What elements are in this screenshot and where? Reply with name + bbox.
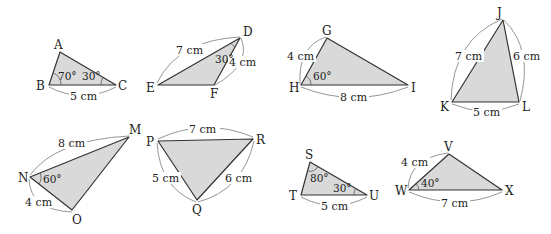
vertex-u-label: U	[369, 189, 379, 203]
side-df-label: 4 cm	[229, 56, 257, 69]
triangle-pqr: P Q R 7 cm 5 cm 6 cm	[146, 123, 266, 217]
vertex-t-label: T	[289, 189, 297, 203]
vertex-g-label: G	[322, 24, 332, 38]
vertex-v-label: V	[443, 140, 453, 154]
triangle-ghi: G H I 60° 4 cm 8 cm	[286, 24, 416, 104]
side-bc-label: 5 cm	[70, 90, 98, 103]
vertex-q-label: Q	[192, 203, 202, 217]
vertex-o-label: O	[72, 213, 82, 227]
vertex-c-label: C	[118, 79, 127, 93]
side-no-label: 4 cm	[25, 196, 53, 209]
vertex-e-label: E	[146, 81, 155, 95]
angle-n-label: 60°	[43, 173, 62, 185]
side-jk-label: 7 cm	[455, 50, 483, 63]
angle-s-label: 80°	[310, 172, 329, 184]
vertex-n-label: N	[18, 171, 29, 185]
vertex-l-label: L	[522, 100, 530, 114]
vertex-f-label: F	[210, 87, 218, 101]
side-jl-label: 6 cm	[513, 50, 541, 63]
angle-h-label: 60°	[313, 70, 332, 82]
triangle-stu: S T U 80° 30° 5 cm	[289, 148, 379, 213]
triangles-figure: A B C 70° 30° 5 cm E D F 30° 7 cm 4 cm G…	[0, 0, 551, 234]
side-gh-label: 4 cm	[287, 50, 315, 63]
side-mn-label: 8 cm	[58, 137, 86, 150]
vertex-d-label: D	[243, 25, 253, 39]
vertex-x-label: X	[505, 184, 514, 198]
vertex-h-label: H	[289, 81, 299, 95]
vertex-i-label: I	[411, 81, 416, 95]
vertex-w-label: W	[395, 184, 408, 198]
vertex-k-label: K	[440, 100, 450, 114]
side-de-label: 7 cm	[176, 44, 204, 57]
triangle-mno: M N O 60° 8 cm 4 cm	[18, 123, 141, 227]
side-tu-label: 5 cm	[321, 200, 349, 213]
vertex-s-label: S	[305, 148, 313, 162]
side-wx-label: 7 cm	[441, 197, 469, 210]
triangle-jkl: J K L 7 cm 6 cm 5 cm	[440, 6, 544, 119]
triangle-vwx: V W X 40° 4 cm 7 cm	[395, 140, 514, 210]
side-pq-label: 5 cm	[152, 172, 180, 185]
triangle-def: E D F 30° 7 cm 4 cm	[146, 25, 258, 101]
vertex-a-label: A	[53, 38, 63, 52]
vertex-r-label: R	[256, 133, 266, 147]
angle-u-label: 30°	[333, 182, 352, 194]
angle-w-label: 40°	[421, 177, 440, 189]
side-qr-label: 6 cm	[225, 172, 253, 185]
vertex-p-label: P	[146, 135, 154, 149]
triangle-pqr-shape	[158, 139, 253, 200]
angle-b-label: 70°	[58, 70, 77, 82]
side-kl-label: 5 cm	[473, 106, 501, 119]
side-pr-label: 7 cm	[189, 123, 217, 136]
vertex-b-label: B	[36, 79, 45, 93]
vertex-j-label: J	[495, 6, 502, 20]
vertex-m-label: M	[129, 123, 141, 137]
angle-c-label: 30°	[82, 70, 101, 82]
side-vw-label: 4 cm	[401, 156, 429, 169]
triangle-abc: A B C 70° 30° 5 cm	[36, 38, 127, 103]
side-hi-label: 8 cm	[340, 91, 368, 104]
